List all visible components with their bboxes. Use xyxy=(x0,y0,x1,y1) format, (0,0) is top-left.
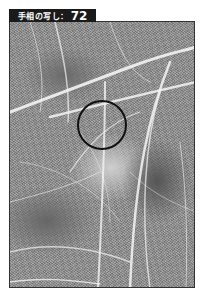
figure-label-text: 手相の写し： xyxy=(18,10,69,21)
figure-label: 手相の写し： 72 xyxy=(9,9,96,22)
palm-lines-overlay xyxy=(10,22,195,288)
highlight-circle xyxy=(77,100,127,150)
palm-photo xyxy=(9,21,195,288)
figure-number: 72 xyxy=(71,10,88,22)
